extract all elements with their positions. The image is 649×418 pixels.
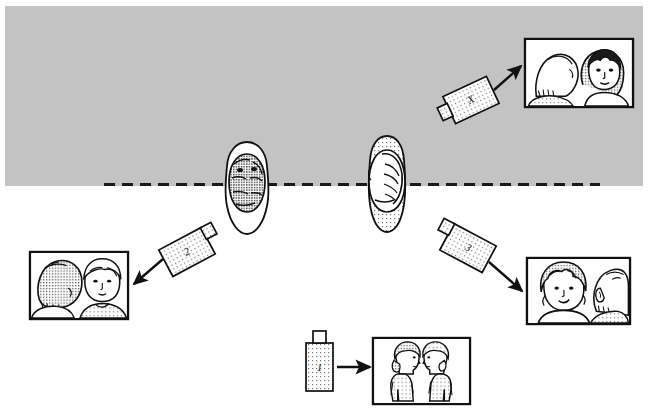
camera-3[interactable]: 3 — [430, 218, 496, 272]
camera-1-label: 1 — [317, 361, 323, 373]
camera-1-lens-icon — [313, 331, 326, 343]
figure-root: X 2 3 1 — [0, 0, 649, 418]
subject-right — [369, 136, 406, 232]
diagram-canvas: X 2 3 1 — [0, 0, 649, 418]
arrow-3 — [489, 262, 522, 291]
photo-frame-1[interactable] — [373, 338, 470, 404]
arrow-2 — [134, 259, 163, 284]
photo-frame-2[interactable] — [30, 252, 128, 319]
camera-1[interactable]: 1 — [306, 331, 333, 391]
camera-2[interactable]: 2 — [159, 222, 225, 276]
photo-frame-3[interactable] — [527, 258, 630, 324]
subject-left — [225, 142, 268, 234]
photo-frame-x[interactable] — [525, 39, 633, 107]
